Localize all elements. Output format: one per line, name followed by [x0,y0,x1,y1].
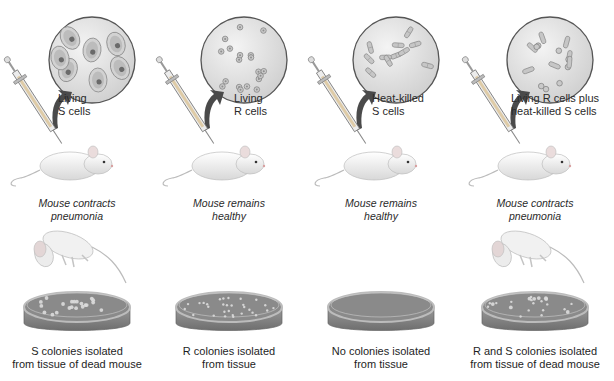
r-colony [206,303,208,305]
dead-s-cell [392,43,404,48]
r-colony [228,310,230,312]
r-colony [489,302,491,304]
result-line-2: from tissue of dead mouse [458,358,612,371]
result-line-1: R and S colonies isolated [458,345,612,358]
result-label: R and S colonies isolated from tissue of… [458,345,612,371]
r-colony [532,302,534,304]
s-colony [61,302,65,306]
r-colony [219,298,221,300]
outcome-label: Mouse remains healthy [304,197,458,223]
experiment-panel-living-s: Living S cells Mouse contracts pneumonia [0,0,154,381]
s-colony [509,306,513,310]
outcome-line-1: Mouse remains [152,197,306,210]
s-colony [43,311,47,315]
s-colony [80,302,84,306]
r-colony [192,314,194,316]
dead-mouse-illustration [31,226,126,283]
r-colony [226,304,228,306]
r-colony [202,302,204,304]
s-cell [89,68,108,93]
cell-label-line-2: heat-killed S cells [511,105,599,118]
result-line-2: from tissue [152,358,306,371]
r-colony [495,302,497,304]
r-cell [534,44,540,50]
cell-label-line-1: Heat-killed [372,92,424,105]
r-colony [184,308,186,310]
r-colony [187,303,189,305]
r-colony [272,307,274,309]
s-colony [51,313,55,317]
magnifier-view [49,17,135,103]
result-label: No colonies isolated from tissue [304,345,458,371]
mouse-illustration [469,146,571,186]
dish-area [458,225,612,345]
s-colony [566,310,570,314]
r-colony [248,309,250,311]
magnifier-view [353,17,439,103]
experiment-panel-living-r: Living R cells Mouse remains healthy [152,0,306,381]
s-colony [55,311,59,315]
cell-label-line-2: S cells [58,105,90,118]
r-colony [242,304,244,306]
dead-s-cell [567,56,572,68]
r-colony [487,306,489,308]
magnifier-view [201,17,287,103]
s-colony [532,297,536,301]
experiment-panel-heat-killed-s: Heat-killed S cells Mouse remains health… [304,0,458,381]
s-colony [91,301,95,305]
outcome-line-2: pneumonia [0,210,154,223]
r-colony [570,303,572,305]
dish-area [304,225,458,345]
petri-dish [482,292,588,331]
outcome-line-1: Mouse contracts [0,197,154,210]
r-colony [527,309,529,311]
r-cell [556,48,562,54]
cell-label-line-2: R cells [234,105,267,118]
s-colony [45,296,49,300]
curved-arrow-icon [204,90,224,130]
r-colony [255,299,257,301]
cell-label-line-1: Living [234,92,267,105]
s-colony [544,296,548,300]
r-colony [530,296,532,298]
outcome-label: Mouse contracts pneumonia [0,197,154,223]
cell-label-line-1: Living [58,92,90,105]
r-colony [264,304,266,306]
magnifier-view [507,17,593,103]
outcome-label: Mouse contracts pneumonia [458,197,612,223]
r-colony [251,311,253,313]
result-line-2: from tissue of dead mouse [0,358,154,371]
mouse-illustration [11,146,113,186]
r-colony [198,302,200,304]
dish-area [152,225,306,345]
r-colony [255,314,257,316]
r-colony [519,315,521,317]
outcome-line-1: Mouse contracts [458,197,612,210]
cell-label-line-2: S cells [372,105,424,118]
r-colony [232,316,234,318]
outcome-line-2: healthy [152,210,306,223]
cell-label-line-1: Living R cells plus [511,92,599,105]
mouse-illustration [315,146,417,186]
outcome-line-2: pneumonia [458,210,612,223]
result-line-2: from tissue [304,358,458,371]
s-colony [68,306,72,310]
s-colony [537,296,541,300]
s-colony [39,304,43,308]
outcome-label: Mouse remains healthy [152,197,306,223]
r-colony [563,308,565,310]
dish-area [0,225,154,345]
r-colony [241,312,243,314]
petri-dish [328,292,434,331]
mouse-illustration [163,146,265,186]
outcome-line-2: healthy [304,210,458,223]
r-cell [557,80,563,86]
s-colony [491,302,495,306]
cell-label: Living R cells plus heat-killed S cells [511,92,599,118]
injection-illustration [152,0,306,195]
result-line-1: S colonies isolated [0,345,154,358]
r-colony [222,297,224,299]
r-colony [239,298,241,300]
cell-label: Living R cells [234,92,267,118]
petri-dish [176,292,282,331]
